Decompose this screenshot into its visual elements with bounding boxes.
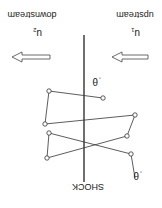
downstream-label: downstream — [7, 10, 56, 20]
path-vertex — [101, 96, 105, 100]
path-vertex — [125, 134, 129, 138]
shock-label: SHOCK — [72, 182, 104, 192]
particle-path — [45, 91, 135, 178]
downstream-velocity-label: u2 — [32, 27, 42, 39]
angle-marker-dot — [99, 77, 100, 78]
downstream-flow-arrow-icon — [12, 52, 50, 62]
angle-label-end: θ — [92, 76, 98, 87]
angle-marker-dot — [140, 171, 141, 172]
path-vertex — [129, 152, 133, 156]
shock-diagram: SHOCK upstream u1 downstream u2 θ θ — [0, 0, 162, 208]
upstream-label: upstream — [116, 10, 154, 20]
angle-label-start: θ — [133, 170, 139, 181]
path-vertex — [47, 131, 51, 135]
path-vertex — [47, 89, 51, 93]
upstream-flow-arrow-icon — [112, 52, 148, 62]
path-vertex — [45, 156, 49, 160]
upstream-velocity-label: u1 — [130, 27, 140, 39]
path-vertex — [133, 113, 137, 117]
diagram-stage: SHOCK upstream u1 downstream u2 θ θ — [0, 0, 162, 208]
path-vertex — [43, 122, 47, 126]
